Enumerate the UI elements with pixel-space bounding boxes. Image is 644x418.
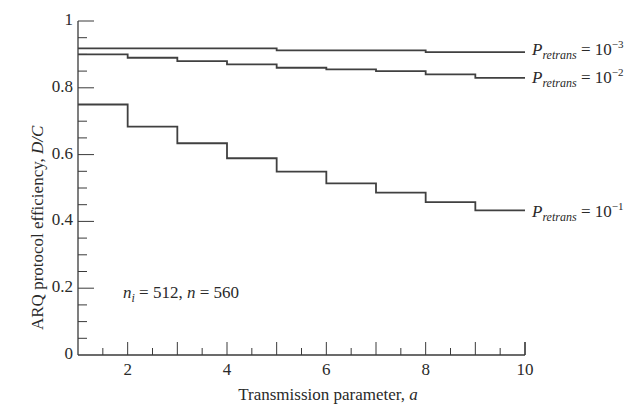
series-label-2: Pretrans = 10−2 [532,66,623,91]
legend-sub: retrans [542,48,576,62]
y-axis-label-var: D/C [28,126,47,154]
parameter-annotation: ni = 512, n = 560 [123,283,239,306]
legend-sub: retrans [542,76,576,90]
legend-p: P [532,68,542,87]
legend-eq: = 10 [577,40,612,59]
x-axis-label-text: Transmission parameter, [238,385,409,404]
x-tick-label: 2 [113,360,143,380]
legend-p: P [532,40,542,59]
x-tick-label: 10 [510,360,540,380]
annot-ni-n: n [123,283,132,302]
x-axis-label: Transmission parameter, a [0,385,644,405]
x-tick-label: 8 [411,360,441,380]
legend-sub: retrans [542,210,576,224]
legend-p: P [532,202,542,221]
x-tick-label: 6 [311,360,341,380]
legend-exponent: −3 [612,38,624,50]
y-tick-label: 0 [43,344,73,364]
legend-eq: = 10 [577,68,612,87]
annot-n-value: = 560 [195,283,239,302]
series-label-1: Pretrans = 10−3 [532,38,623,63]
annot-ni-value: = 512, [135,283,187,302]
series-line-2 [78,54,525,77]
y-tick-label: 1 [43,10,73,30]
series-line-3 [78,105,525,211]
legend-exponent: −2 [612,66,624,78]
y-tick-label: 0.8 [43,77,73,97]
series-line-1 [78,48,525,52]
legend-exponent: −1 [612,200,624,212]
legend-eq: = 10 [577,202,612,221]
y-axis-label-text: ARQ protocol efficiency, [28,154,47,330]
x-axis-label-var: a [409,385,418,404]
x-tick-label: 4 [212,360,242,380]
series-label-3: Pretrans = 10−1 [532,200,623,225]
y-axis-label: ARQ protocol efficiency, D/C [28,126,48,330]
